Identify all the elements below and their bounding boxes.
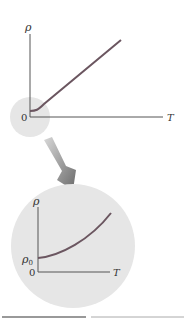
bottom-origin-label: 0 <box>29 267 35 278</box>
top-y-label: ρ <box>24 21 32 34</box>
top-graph: ρ T 0 <box>10 21 175 137</box>
zoom-arrow-icon <box>44 137 76 190</box>
top-x-label: T <box>167 112 175 123</box>
resistivity-temperature-diagram: ρ T 0 ρ T 0 ρ0 <box>0 0 184 318</box>
top-curve <box>30 40 121 111</box>
bottom-graph: ρ T 0 ρ0 <box>11 184 135 308</box>
top-origin-label: 0 <box>21 112 27 123</box>
bottom-y-label: ρ <box>32 195 40 208</box>
